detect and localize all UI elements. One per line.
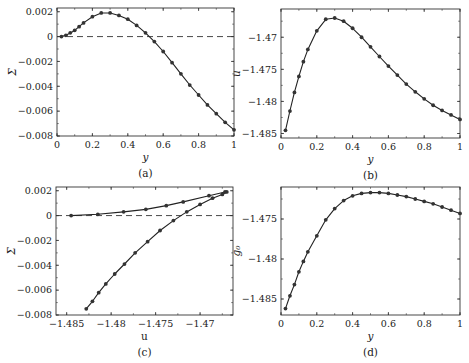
data-point-marker	[387, 64, 391, 68]
data-point-marker	[315, 234, 319, 238]
x-tick-label: 0.8	[191, 139, 206, 150]
x-axis-label: y	[367, 330, 375, 342]
data-point-marker	[431, 103, 435, 107]
x-tick-label: 0.4	[120, 139, 135, 150]
data-point-marker	[135, 23, 139, 27]
data-line	[286, 18, 461, 130]
x-tick-label: 0	[54, 139, 60, 150]
x-tick-label: 0.4	[345, 141, 360, 152]
data-point-marker	[197, 93, 201, 97]
panel-a-sigma-vs-y: 00.20.40.60.810.0020−0.002−0.004−0.006−0…	[6, 6, 237, 179]
x-tick-label: 1	[457, 318, 463, 329]
data-point-marker	[342, 199, 346, 203]
data-point-marker	[306, 48, 310, 52]
data-point-marker	[91, 15, 95, 19]
data-point-marker	[117, 14, 121, 18]
data-point-marker	[99, 11, 103, 15]
x-tick-label: 0.6	[381, 141, 396, 152]
x-axis-label: y	[142, 151, 150, 163]
data-point-marker	[378, 191, 382, 195]
data-point-marker	[458, 117, 462, 121]
x-tick-label: 0.2	[309, 141, 324, 152]
data-point-marker	[284, 128, 288, 132]
data-point-marker	[440, 205, 444, 209]
data-point-marker	[113, 272, 117, 276]
data-line	[286, 193, 461, 309]
data-point-marker	[96, 212, 100, 216]
panel-caption: (a)	[138, 167, 152, 179]
data-point-marker	[360, 35, 364, 39]
data-point-marker	[225, 190, 229, 194]
data-point-marker	[413, 197, 417, 201]
y-tick-label: −0.002	[17, 235, 52, 246]
data-point-marker	[198, 202, 202, 206]
data-point-marker	[404, 82, 408, 86]
data-point-marker	[108, 11, 112, 15]
data-point-marker	[172, 219, 176, 223]
y-tick-label: −0.004	[18, 81, 53, 92]
data-point-marker	[342, 19, 346, 23]
data-point-marker	[164, 204, 168, 208]
x-tick-label: 0.6	[381, 318, 396, 329]
x-tick-label: 0.2	[85, 139, 100, 150]
x-tick-label: 0.6	[156, 139, 171, 150]
figure: 00.20.40.60.810.0020−0.002−0.004−0.006−0…	[0, 0, 469, 363]
y-axis-label: Σ	[6, 68, 18, 77]
data-point-marker	[126, 17, 130, 21]
y-tick-label: 0	[46, 210, 52, 221]
y-axis-label: g₀	[230, 245, 242, 257]
data-point-marker	[324, 218, 328, 222]
axes-frame	[56, 187, 233, 315]
y-tick-label: −0.008	[17, 309, 52, 320]
data-point-marker	[440, 109, 444, 113]
x-axis-label: u	[141, 330, 148, 342]
data-point-marker	[91, 299, 95, 303]
data-point-marker	[220, 193, 224, 197]
y-axis-label: Σ	[5, 247, 17, 256]
y-tick-label: −1.48	[248, 253, 277, 264]
y-tick-label: −1.47	[248, 32, 277, 43]
data-point-marker	[315, 29, 319, 33]
data-point-marker	[431, 202, 435, 206]
data-point-marker	[152, 40, 156, 44]
data-point-marker	[144, 31, 148, 35]
data-point-marker	[146, 240, 150, 244]
data-point-marker	[422, 97, 426, 101]
y-tick-label: −1.48	[248, 96, 277, 107]
data-point-marker	[293, 91, 297, 95]
y-axis-label: u	[230, 70, 242, 77]
x-tick-label: 0	[278, 318, 284, 329]
y-tick-label: −1.475	[242, 64, 277, 75]
data-point-marker	[133, 251, 137, 255]
data-point-marker	[185, 210, 189, 214]
data-point-marker	[297, 270, 301, 274]
data-point-marker	[144, 207, 148, 211]
data-point-marker	[413, 90, 417, 94]
x-tick-label: 0.8	[417, 318, 432, 329]
x-tick-label: 0.4	[345, 318, 360, 329]
axes-frame	[281, 9, 460, 138]
data-point-marker	[181, 200, 185, 204]
y-tick-label: 0	[47, 31, 53, 42]
data-point-marker	[369, 191, 373, 195]
x-tick-label: −1.47	[186, 318, 215, 329]
panel-caption: (d)	[363, 346, 378, 358]
x-tick-label: 0	[278, 141, 284, 152]
data-point-marker	[68, 31, 72, 35]
data-point-marker	[333, 207, 337, 211]
data-point-marker	[123, 262, 127, 266]
data-point-marker	[288, 109, 292, 113]
data-point-marker	[161, 50, 165, 54]
data-point-marker	[301, 260, 305, 264]
x-axis-label: y	[367, 153, 375, 165]
panel-caption: (c)	[137, 346, 151, 358]
data-point-marker	[69, 214, 73, 218]
data-point-marker	[378, 55, 382, 59]
data-point-marker	[232, 128, 236, 132]
y-tick-label: 0.002	[25, 185, 52, 196]
y-tick-label: −1.485	[242, 293, 277, 304]
data-point-marker	[395, 73, 399, 77]
data-line	[61, 13, 234, 130]
y-tick-label: 0.002	[26, 6, 53, 17]
data-point-marker	[211, 196, 215, 200]
